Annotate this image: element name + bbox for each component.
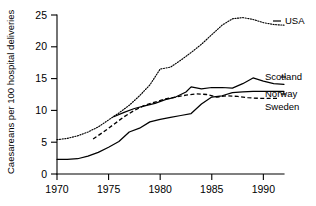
y-tick-label: 5 [41, 136, 47, 148]
series-label-usa: USA [285, 15, 305, 26]
x-tick-label: 1970 [45, 183, 69, 195]
y-tick-group: 0510152025 [35, 9, 57, 180]
y-tick-label: 15 [35, 72, 47, 84]
series-label-norway: Norway [265, 88, 297, 99]
y-tick-label: 0 [41, 168, 47, 180]
series-line-sweden [93, 94, 279, 139]
chart-container: Caesareans per 100 hospital deliveries 0… [0, 0, 316, 206]
x-tick-label: 1985 [200, 183, 224, 195]
series-line-norway [57, 91, 284, 159]
y-tick-label: 25 [35, 9, 47, 21]
series-label-scotland: Scotland [265, 71, 302, 82]
y-axis-title: Caesareans per 100 hospital deliveries [5, 10, 16, 174]
x-tick-label: 1990 [252, 183, 276, 195]
series-labels-group: USA Scotland Norway Sweden [265, 15, 305, 112]
y-tick-label: 10 [35, 104, 47, 116]
x-tick-label: 1980 [149, 183, 173, 195]
series-label-sweden: Sweden [265, 101, 299, 112]
x-tick-group: 19701975198019851990 [45, 174, 275, 195]
x-tick-label: 1975 [97, 183, 121, 195]
series-leaders [273, 21, 286, 94]
series-line-usa [57, 18, 284, 140]
line-chart: Caesareans per 100 hospital deliveries 0… [0, 0, 316, 206]
series-line-scotland [114, 78, 284, 117]
y-tick-label: 20 [35, 40, 47, 52]
series-group [57, 18, 284, 160]
axes-group [57, 15, 284, 174]
y-axis-title-group: Caesareans per 100 hospital deliveries [5, 10, 16, 174]
